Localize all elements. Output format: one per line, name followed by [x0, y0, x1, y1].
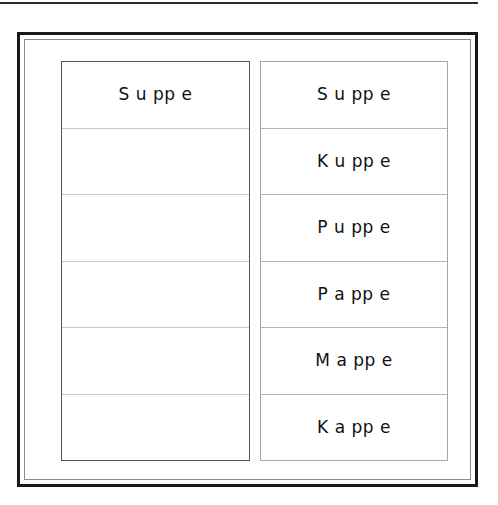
list-item[interactable]: P a pp e — [261, 261, 447, 328]
word-list-column: S u pp e K u pp e P u pp e P a pp e M a … — [260, 61, 448, 461]
list-item[interactable]: S u pp e — [62, 62, 249, 128]
list-item[interactable]: P u pp e — [261, 194, 447, 261]
list-item[interactable]: K u pp e — [261, 128, 447, 195]
list-item[interactable] — [62, 128, 249, 195]
panel-pair: S u pp e S u pp e K u pp e P u pp e P a … — [61, 61, 448, 461]
list-item[interactable]: S u pp e — [261, 62, 447, 128]
list-item[interactable] — [62, 261, 249, 328]
list-item[interactable]: K a pp e — [261, 394, 447, 461]
top-rule — [0, 2, 478, 4]
inner-frame: S u pp e S u pp e K u pp e P u pp e P a … — [24, 39, 471, 480]
list-item[interactable] — [62, 194, 249, 261]
outer-frame: S u pp e S u pp e K u pp e P u pp e P a … — [17, 32, 478, 487]
list-item[interactable]: M a pp e — [261, 327, 447, 394]
list-item[interactable] — [62, 394, 249, 461]
list-item[interactable] — [62, 327, 249, 394]
blank-answer-column: S u pp e — [61, 61, 250, 461]
